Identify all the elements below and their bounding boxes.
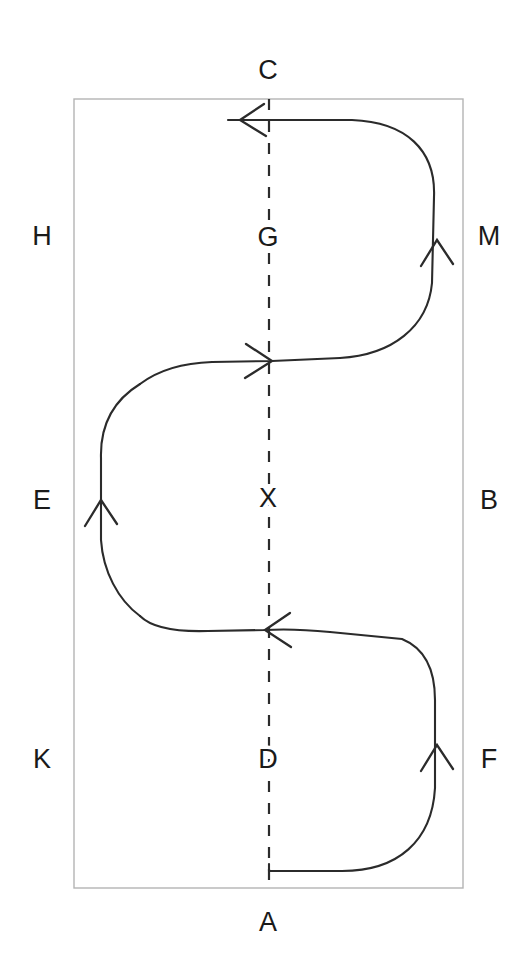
label-B: B — [480, 485, 498, 515]
label-H: H — [32, 221, 52, 251]
label-C: C — [258, 55, 278, 85]
label-F: F — [481, 744, 498, 774]
label-G: G — [257, 222, 278, 252]
label-E: E — [33, 485, 51, 515]
label-K: K — [33, 744, 51, 774]
diagram-canvas: C A H E K M B F G G X X D D — [0, 0, 531, 980]
label-M: M — [478, 221, 501, 251]
label-X: X — [259, 483, 277, 513]
label-A: A — [259, 907, 277, 937]
figure-container: C A H E K M B F G G X X D D — [0, 0, 531, 980]
label-D: D — [258, 744, 278, 774]
